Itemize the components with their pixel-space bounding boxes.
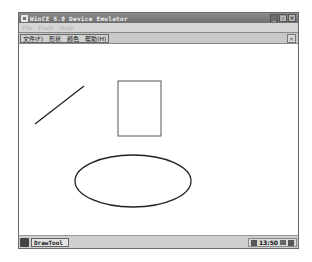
app-close-button[interactable]: ×: [287, 34, 296, 43]
app-icon: [21, 15, 28, 22]
canvas-shapes: [19, 45, 298, 236]
minimize-button[interactable]: _: [270, 14, 278, 22]
menu-file[interactable]: File: [22, 24, 32, 31]
drawing-canvas[interactable]: [19, 45, 298, 236]
emulator-window: WinCE 6.0 Device Emulator _ □ × File Fla…: [18, 12, 299, 249]
window-title: WinCE 6.0 Device Emulator: [30, 15, 128, 22]
task-button-drawtool[interactable]: DrawTool: [31, 238, 69, 247]
drawn-ellipse: [75, 155, 191, 207]
app-menu-shape[interactable]: 形状: [49, 35, 61, 42]
input-panel-icon[interactable]: [251, 240, 257, 246]
taskbar: DrawTool 13:50: [19, 235, 298, 248]
app-menu-bar: 文件(F) 形状 颜色 帮助(H): [20, 34, 109, 43]
title-bar[interactable]: WinCE 6.0 Device Emulator _ □ ×: [19, 13, 298, 23]
menu-help[interactable]: Help: [60, 24, 74, 31]
clock[interactable]: 13:50: [259, 239, 278, 246]
device-screen: 文件(F) 形状 颜色 帮助(H) × DrawTool 13:50: [19, 32, 298, 248]
emulator-menu-bar: File Flash Help: [19, 23, 298, 32]
app-menu-color[interactable]: 颜色: [67, 35, 79, 42]
network-icon[interactable]: [288, 240, 294, 246]
system-tray: 13:50: [248, 238, 297, 247]
drawn-rectangle: [118, 81, 161, 136]
command-bar: 文件(F) 形状 颜色 帮助(H) ×: [19, 33, 298, 44]
drawn-line: [35, 86, 84, 124]
window-controls: _ □ ×: [270, 14, 296, 22]
app-menu-file[interactable]: 文件(F): [23, 35, 43, 42]
maximize-button[interactable]: □: [279, 14, 287, 22]
app-menu-help[interactable]: 帮助(H): [85, 35, 106, 42]
close-button[interactable]: ×: [288, 14, 296, 22]
start-icon[interactable]: [20, 238, 29, 247]
desktop-icon[interactable]: [280, 240, 286, 245]
menu-flash[interactable]: Flash: [38, 24, 54, 31]
